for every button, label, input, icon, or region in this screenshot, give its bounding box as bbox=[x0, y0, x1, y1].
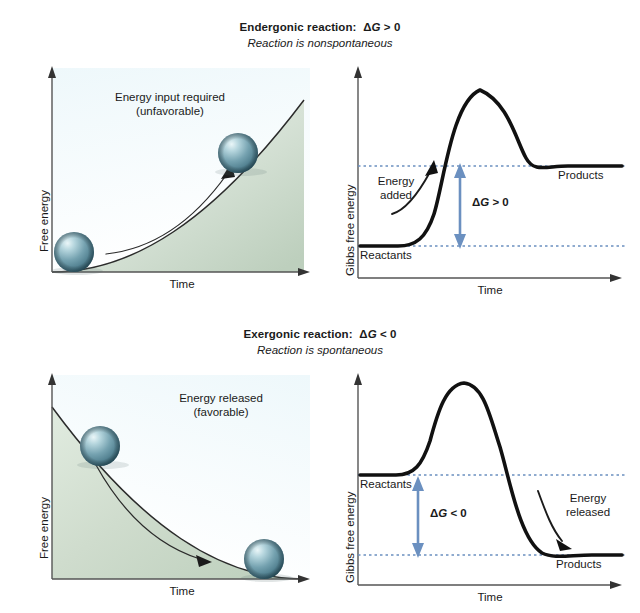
energy-added-line2: added bbox=[360, 188, 432, 202]
delta-g-arrow bbox=[454, 163, 466, 249]
section-title-prefix: Endergonic reaction: bbox=[240, 21, 357, 33]
delta-g-symbol: ΔG > 0 bbox=[360, 21, 401, 33]
section-endergonic: Endergonic reaction: ΔG > 0 Reaction is … bbox=[0, 0, 640, 306]
energy-annotation: Energy input required (unfavorable) bbox=[70, 90, 270, 118]
energy-released-arrow-head bbox=[556, 539, 572, 551]
g-glyph: G bbox=[480, 196, 489, 208]
section-subtitle: Reaction is spontaneous bbox=[0, 343, 640, 358]
delta-g-value-label: ΔG < 0 bbox=[430, 506, 467, 520]
gibbs-energy-curve bbox=[360, 383, 622, 556]
y-axis-title: Gibbs free energy bbox=[344, 185, 356, 276]
y-axis-title: Free energy bbox=[38, 190, 50, 252]
energy-annotation-line1: Energy input required bbox=[70, 90, 270, 104]
energy-released-line2: released bbox=[548, 505, 628, 519]
section-title: Exergonic reaction: ΔG < 0 bbox=[0, 327, 640, 342]
delta-g-arrow-head-up bbox=[412, 476, 424, 491]
energy-annotation: Energy released (favorable) bbox=[146, 391, 296, 419]
g-glyph: G bbox=[368, 328, 377, 340]
energy-released-label: Energy released bbox=[548, 491, 628, 519]
heading-exergonic: Exergonic reaction: ΔG < 0 Reaction is s… bbox=[0, 327, 640, 358]
relation-glyph: > 0 bbox=[492, 196, 508, 208]
delta-glyph: Δ bbox=[359, 328, 367, 340]
delta-g-value-label: ΔG > 0 bbox=[472, 195, 509, 209]
thermodynamics-figure: Endergonic reaction: ΔG > 0 Reaction is … bbox=[0, 0, 640, 613]
section-title: Endergonic reaction: ΔG > 0 bbox=[0, 20, 640, 35]
panel-exergonic-reaction-coordinate: Gibbs free energy Time Reactants Product… bbox=[330, 369, 630, 607]
energy-annotation-line2: (favorable) bbox=[146, 405, 296, 419]
energy-annotation-line2: (unfavorable) bbox=[70, 104, 270, 118]
panel-exergonic-ball-diagram: Free energy Time Energy released (favora… bbox=[22, 369, 314, 607]
energy-annotation-line1: Energy released bbox=[146, 391, 296, 405]
reactants-label: Reactants bbox=[360, 477, 412, 491]
relation-glyph: < 0 bbox=[380, 328, 397, 340]
energy-added-line1: Energy bbox=[360, 174, 432, 188]
x-axis-title: Time bbox=[132, 278, 232, 290]
reactant-sphere-shade bbox=[54, 232, 94, 272]
g-glyph: G bbox=[438, 507, 447, 519]
x-axis-arrowhead bbox=[610, 581, 622, 589]
x-axis-arrowhead bbox=[610, 274, 622, 282]
g-glyph: G bbox=[372, 21, 381, 33]
product-sphere-shade bbox=[244, 539, 284, 579]
relation-glyph: < 0 bbox=[450, 507, 466, 519]
products-label: Products bbox=[558, 168, 603, 182]
product-sphere-shade bbox=[218, 133, 258, 173]
reactant-sphere-shade bbox=[80, 426, 120, 466]
heading-endergonic: Endergonic reaction: ΔG > 0 Reaction is … bbox=[0, 20, 640, 51]
reactants-label: Reactants bbox=[360, 248, 412, 262]
section-title-prefix: Exergonic reaction: bbox=[243, 328, 352, 340]
products-label: Products bbox=[556, 557, 601, 571]
y-axis-arrowhead bbox=[354, 373, 362, 385]
delta-g-symbol: ΔG < 0 bbox=[356, 328, 397, 340]
energy-added-label: Energy added bbox=[360, 174, 432, 202]
x-axis-title: Time bbox=[440, 591, 540, 603]
y-axis-title: Free energy bbox=[38, 497, 50, 559]
x-axis-title: Time bbox=[132, 585, 232, 597]
relation-glyph: > 0 bbox=[384, 21, 401, 33]
section-subtitle: Reaction is nonspontaneous bbox=[0, 36, 640, 51]
delta-glyph: Δ bbox=[363, 21, 371, 33]
x-axis-title: Time bbox=[440, 284, 540, 296]
panel-endergonic-ball-diagram: Free energy Time Energy input required (… bbox=[22, 62, 314, 300]
delta-g-arrow bbox=[412, 476, 424, 558]
y-axis-arrowhead bbox=[354, 66, 362, 78]
section-exergonic: Exergonic reaction: ΔG < 0 Reaction is s… bbox=[0, 307, 640, 613]
panel-endergonic-reaction-coordinate: Gibbs free energy Time Reactants Product… bbox=[330, 62, 630, 300]
energy-released-line1: Energy bbox=[548, 491, 628, 505]
y-axis-title: Gibbs free energy bbox=[344, 492, 356, 583]
